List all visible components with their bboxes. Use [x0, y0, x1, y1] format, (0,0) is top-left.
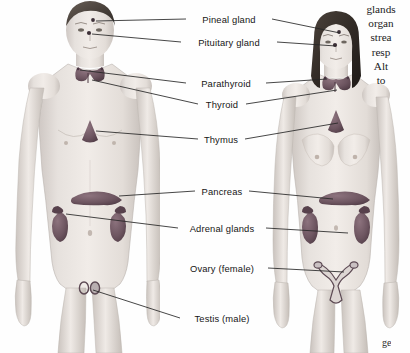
male-body-illustration — [0, 0, 160, 353]
pituitary-gland-organ — [333, 43, 337, 47]
label-pituitary-gland: Pituitary gland — [196, 37, 263, 48]
label-parathyroid: Parathyroid — [199, 78, 254, 89]
body-text-line: glands — [352, 2, 410, 16]
endocrine-system-diagram: Pineal gland Pituitary gland Parathyroid… — [0, 0, 410, 353]
label-adrenal-glands: Adrenal glands — [187, 223, 257, 234]
label-ovary-female: Ovary (female) — [187, 263, 256, 274]
parathyroid-organ — [324, 77, 327, 80]
pineal-gland-organ — [91, 18, 95, 22]
body-text-column: glands organ strea resp Alt to — [352, 2, 410, 87]
pineal-gland-organ — [337, 30, 341, 34]
label-pancreas: Pancreas — [199, 186, 245, 197]
label-thymus: Thymus — [201, 134, 240, 145]
parathyroid-organ — [101, 68, 104, 71]
body-text-line: strea — [352, 30, 410, 44]
label-pineal-gland: Pineal gland — [200, 14, 258, 25]
body-text-line: resp — [352, 45, 410, 59]
corner-text-fragment: ge — [382, 337, 391, 348]
body-text-line: organ — [352, 16, 410, 30]
body-text-line: to — [352, 73, 410, 87]
label-testis-male: Testis (male) — [192, 313, 252, 324]
label-thyroid: Thyroid — [203, 99, 240, 110]
parathyroid-organ — [77, 68, 80, 71]
parathyroid-organ — [347, 77, 350, 80]
pituitary-gland-organ — [87, 31, 91, 35]
body-text-line: Alt — [352, 59, 410, 73]
